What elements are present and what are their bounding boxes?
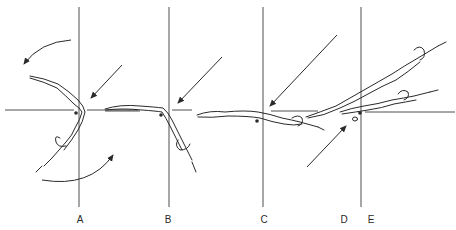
diagram-canvas <box>0 0 456 230</box>
rotation-arrow-bottom-icon <box>42 155 113 182</box>
force-arrow-b-icon <box>178 57 222 103</box>
swimmer-figure-b <box>105 105 196 172</box>
vertical-reference-lines <box>79 7 361 207</box>
force-arrow-c-icon <box>270 35 337 106</box>
swimmer-figure-e <box>340 90 438 121</box>
force-arrow-a-icon <box>91 65 122 98</box>
swimmer-figure-d <box>306 42 446 118</box>
phase-label-d: D <box>340 214 347 225</box>
phase-label-a: A <box>77 214 84 225</box>
force-arrow-de-icon <box>307 126 346 167</box>
swimmer-figure-a <box>30 76 85 172</box>
swimmer-figure-c <box>197 111 324 130</box>
phase-label-c: C <box>260 214 267 225</box>
rotation-arrow-top-icon <box>24 40 71 64</box>
phase-label-b: B <box>165 214 172 225</box>
phase-label-e: E <box>368 214 375 225</box>
